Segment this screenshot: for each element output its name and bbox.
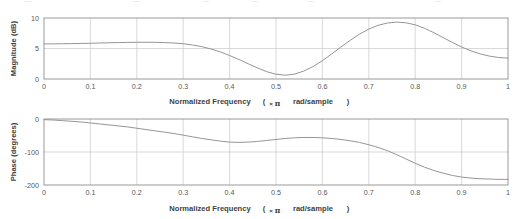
- magnitude-xtick-label-8: 0.8: [410, 82, 420, 91]
- magnitude-xtick-label-1: 0.1: [85, 82, 95, 91]
- magnitude-yaxis-title: Magnitude (dB): [9, 20, 18, 76]
- magnitude-plot-panel: 10 5 0 0 0.1 0.2 0.3 0.4 0.5 0.6 0.7 0.8…: [0, 0, 521, 110]
- phase-xaxis-title-open: (: [263, 204, 266, 213]
- phase-plot-svg: 0 -100 -200 0 0.1 0.2 0.3 0.4 0.5 0.6 0.…: [0, 105, 521, 219]
- magnitude-ytick-label-5: 5: [35, 44, 39, 53]
- phase-ytick-label-minus200: -200: [25, 181, 39, 190]
- magnitude-xtick-label-9: 0.9: [457, 82, 467, 91]
- phase-xaxis-title-main: Normalized Frequency: [169, 204, 251, 213]
- phase-yaxis-title: Phase (degrees): [9, 122, 18, 181]
- phase-xtick-label-10: 1: [506, 188, 510, 197]
- magnitude-xtick-label-2: 0.2: [132, 82, 142, 91]
- phase-xtick-label-9: 0.9: [457, 188, 467, 197]
- magnitude-plot-svg: 10 5 0 0 0.1 0.2 0.3 0.4 0.5 0.6 0.7 0.8…: [0, 0, 521, 110]
- magnitude-xtick-label-7: 0.7: [364, 82, 374, 91]
- phase-xaxis-title-times: ×: [269, 207, 273, 214]
- phase-xaxis-title-pi: π: [275, 206, 281, 215]
- magnitude-ytick-label-0: 0: [35, 75, 39, 84]
- magnitude-xtick-label-5: 0.5: [271, 82, 281, 91]
- phase-xtick-label-8: 0.8: [410, 188, 420, 197]
- phase-xtick-label-4: 0.4: [225, 188, 235, 197]
- phase-xtick-label-5: 0.5: [271, 188, 281, 197]
- phase-plot-panel: 0 -100 -200 0 0.1 0.2 0.3 0.4 0.5 0.6 0.…: [0, 105, 521, 219]
- phase-xtick-label-7: 0.7: [364, 188, 374, 197]
- figure-canvas: — — — — — —: [0, 0, 521, 219]
- phase-xtick-label-2: 0.2: [132, 188, 142, 197]
- magnitude-xtick-label-6: 0.6: [317, 82, 327, 91]
- phase-ytick-label-minus100: -100: [25, 148, 39, 157]
- phase-xaxis-title-close: ): [347, 204, 350, 213]
- phase-ytick-label-0: 0: [35, 115, 39, 124]
- phase-xaxis-title-unit: rad/sample: [293, 204, 333, 213]
- magnitude-ytick-label-10: 10: [31, 14, 39, 23]
- phase-xtick-label-3: 0.3: [178, 188, 188, 197]
- magnitude-xtick-label-3: 0.3: [178, 82, 188, 91]
- phase-xtick-label-0: 0: [42, 188, 46, 197]
- phase-xtick-label-1: 0.1: [85, 188, 95, 197]
- magnitude-xtick-label-0: 0: [42, 82, 46, 91]
- magnitude-xtick-label-4: 0.4: [225, 82, 235, 91]
- phase-xaxis-title: Normalized Frequency ( × π rad/sample ): [169, 204, 349, 215]
- magnitude-xtick-label-10: 1: [506, 82, 510, 91]
- phase-xtick-label-6: 0.6: [317, 188, 327, 197]
